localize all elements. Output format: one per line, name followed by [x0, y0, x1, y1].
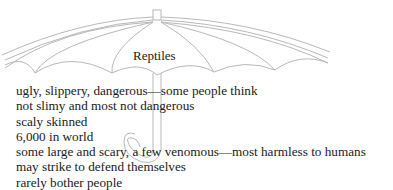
- detail-item: some large and scary, a few venomous—mos…: [16, 144, 366, 159]
- detail-item: ugly, slippery, dangerous—some people th…: [16, 83, 366, 98]
- detail-list: ugly, slippery, dangerous—some people th…: [16, 83, 366, 190]
- detail-item: not slimy and most not dangerous: [16, 98, 366, 113]
- diagram-title: Reptiles: [133, 48, 176, 64]
- detail-item: 6,000 in world: [16, 129, 366, 144]
- detail-item: may strike to defend themselves: [16, 159, 366, 174]
- umbrella-tip: [153, 10, 161, 20]
- detail-item: scaly skinned: [16, 114, 366, 129]
- detail-item: rarely bother people: [16, 175, 366, 190]
